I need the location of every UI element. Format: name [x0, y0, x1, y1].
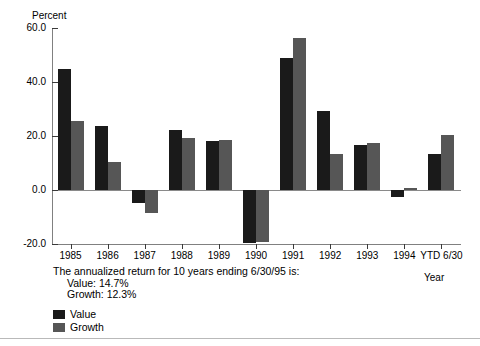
x-tick-mark: [71, 244, 72, 249]
y-tick-label: -20.0: [2, 239, 46, 249]
x-tick-mark: [367, 244, 368, 249]
chart-legend: Value Growth: [53, 308, 104, 334]
x-tick-mark: [108, 244, 109, 249]
bar-group: [200, 28, 237, 244]
x-tick-mark: [441, 244, 442, 249]
bar-growth-1989: [219, 140, 232, 190]
bar-growth-1994: [404, 188, 417, 190]
bar-value-1986: [95, 126, 108, 190]
bar-value-YTD-6-30: [428, 154, 441, 190]
bar-group: [237, 28, 274, 244]
bar-value-1988: [169, 130, 182, 190]
bar-growth-1988: [182, 138, 195, 190]
legend-item-growth: Growth: [53, 321, 104, 333]
bar-value-1985: [58, 69, 71, 190]
legend-label-value: Value: [70, 308, 96, 320]
legend-item-value: Value: [53, 308, 104, 320]
y-tick-label: 60.0: [2, 23, 46, 33]
bar-value-1989: [206, 141, 219, 190]
bar-value-1987: [132, 190, 145, 203]
x-tick-mark: [145, 244, 146, 249]
bar-group: [52, 28, 89, 244]
bar-growth-1992: [330, 154, 343, 190]
chart-figure: Percent 60.040.020.00.0-20.0 19851986198…: [0, 0, 480, 346]
x-tick-label: YTD 6/30: [414, 250, 468, 261]
bar-value-1991: [280, 58, 293, 190]
bar-growth-YTD-6-30: [441, 135, 454, 190]
x-tick-mark: [182, 244, 183, 249]
bar-growth-1986: [108, 162, 121, 190]
y-tick-label: 0.0: [2, 185, 46, 195]
bar-value-1993: [354, 145, 367, 190]
bar-group: [89, 28, 126, 244]
bar-value-1992: [317, 111, 330, 190]
chart-annotation: The annualized return for 10 years endin…: [53, 266, 299, 301]
bar-group: [349, 28, 386, 244]
bar-growth-1987: [145, 190, 158, 213]
legend-swatch-value-icon: [53, 310, 65, 319]
x-tick-mark: [330, 244, 331, 249]
bar-growth-1985: [71, 121, 84, 190]
y-tick-label: 20.0: [2, 131, 46, 141]
y-tick-label: 40.0: [2, 77, 46, 87]
y-tick-mark: [52, 244, 58, 245]
x-tick-mark: [404, 244, 405, 249]
legend-label-growth: Growth: [70, 321, 104, 333]
x-tick-mark: [256, 244, 257, 249]
annotation-line-1: The annualized return for 10 years endin…: [53, 266, 299, 278]
bar-group: [312, 28, 349, 244]
bar-group: [126, 28, 163, 244]
bar-growth-1991: [293, 38, 306, 190]
bar-group: [423, 28, 460, 244]
bar-value-1990: [243, 190, 256, 243]
bar-group: [386, 28, 423, 244]
bar-growth-1990: [256, 190, 269, 242]
bar-value-1994: [391, 190, 404, 197]
legend-swatch-growth-icon: [53, 323, 65, 332]
x-tick-mark: [219, 244, 220, 249]
bottom-divider: [0, 338, 480, 339]
plot-area: [52, 28, 460, 244]
bar-growth-1993: [367, 143, 380, 190]
y-axis-title: Percent: [32, 10, 66, 21]
bar-group: [275, 28, 312, 244]
annotation-line-3: Growth: 12.3%: [53, 289, 299, 301]
x-axis-title: Year: [424, 272, 444, 283]
x-tick-mark: [293, 244, 294, 249]
bar-group: [163, 28, 200, 244]
